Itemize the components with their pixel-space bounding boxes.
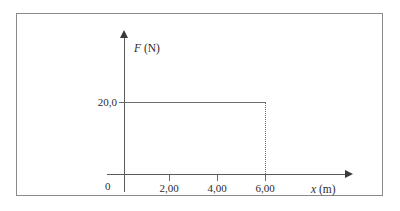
y-axis-tick-label-1: 20,0 [77,96,117,108]
force-drop-dotted-line [265,102,266,174]
y-axis-arrow-icon [120,30,128,38]
x-axis-tick-3 [265,175,266,181]
y-axis-label: F (N) [134,42,160,54]
y-axis-label-unit: (N) [144,42,160,54]
x-axis-arrow-icon [345,170,353,178]
figure-force-vs-position: 20,0 2,00 4,00 6,00 0 F (N) x (m) [0,0,400,211]
x-axis-tick-label-2: 4,00 [197,182,237,194]
x-axis-line [107,174,347,175]
x-axis-tick-1 [169,175,170,181]
x-axis-tick-label-3: 6,00 [245,182,285,194]
x-axis-tick-2 [217,175,218,181]
origin-label: 0 [105,180,111,192]
figure-frame: 20,0 2,00 4,00 6,00 0 F (N) x (m) [16,13,383,196]
x-axis-label-unit: (m) [319,183,336,195]
x-axis-tick-label-1: 2,00 [149,182,189,194]
y-axis-label-variable: F [134,42,141,54]
y-axis-line [124,37,125,192]
x-axis-label: x (m) [311,183,336,195]
force-constant-segment [125,102,266,103]
x-axis-label-variable: x [311,183,316,195]
